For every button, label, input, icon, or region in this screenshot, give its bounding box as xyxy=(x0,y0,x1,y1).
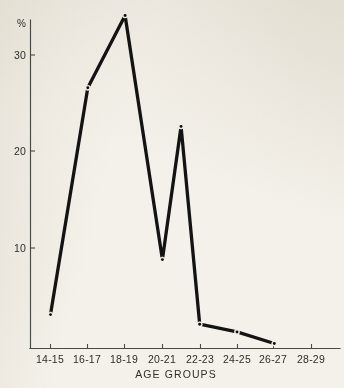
y-tick-label-30: 30 xyxy=(14,49,26,61)
x-tick-label-16-17: 16-17 xyxy=(73,353,101,365)
data-point-19-20 interpolated xyxy=(180,125,183,128)
x-tick-label-22-23: 22-23 xyxy=(186,353,214,365)
data-point-20-21 xyxy=(161,258,164,261)
x-tick-label-26-27: 26-27 xyxy=(259,353,287,365)
data-point-22-23 xyxy=(198,323,201,326)
y-tick-group xyxy=(31,55,36,248)
x-axis-title: AGE GROUPS xyxy=(135,368,217,380)
data-point-18-19 xyxy=(124,14,127,17)
x-tick-label-24-25: 24-25 xyxy=(223,353,251,365)
x-tick-label-14-15: 14-15 xyxy=(36,353,64,365)
y-tick-label-20: 20 xyxy=(14,145,26,157)
x-tick-label-20-21: 20-21 xyxy=(148,353,176,365)
data-point-14-15 xyxy=(49,313,52,316)
x-tick-label-18-19: 18-19 xyxy=(110,353,138,365)
y-axis-label: % xyxy=(17,18,26,29)
x-tick-label-28-29: 28-29 xyxy=(297,353,325,365)
data-point-markers xyxy=(48,13,277,346)
y-tick-label-10: 10 xyxy=(14,242,26,254)
data-point-16-17 xyxy=(86,86,89,89)
chart-figure: 30 20 10 % 14-15 16-17 18-19 20-21 22-23… xyxy=(0,0,344,388)
data-point-24-25 xyxy=(236,331,239,334)
data-point-26-27 xyxy=(273,342,276,345)
data-series-line xyxy=(51,15,275,343)
line-chart-canvas: 30 20 10 % 14-15 16-17 18-19 20-21 22-23… xyxy=(0,0,344,388)
